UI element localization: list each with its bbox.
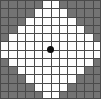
diamond-grid-figure — [0, 0, 101, 99]
grid-canvas — [0, 0, 101, 99]
